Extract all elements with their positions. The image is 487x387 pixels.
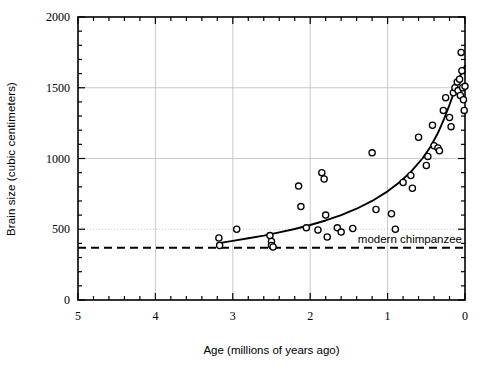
svg-text:4: 4: [152, 309, 158, 323]
svg-text:1000: 1000: [46, 152, 70, 166]
svg-text:modern chimpanzee: modern chimpanzee: [358, 233, 462, 245]
chart-background: [0, 0, 487, 387]
y-axis-title: Brain size (cubic centimeters): [5, 82, 17, 236]
svg-text:0: 0: [462, 309, 468, 323]
figure-root: 5432100500100015002000 modern chimpanzee…: [0, 0, 487, 387]
svg-text:2: 2: [307, 309, 313, 323]
svg-text:2000: 2000: [46, 10, 70, 24]
x-axis-title: Age (millions of years ago): [78, 344, 465, 356]
svg-text:1: 1: [385, 309, 391, 323]
brain-size-vs-age-scatter-chart: 5432100500100015002000 modern chimpanzee: [0, 0, 487, 387]
svg-text:3: 3: [230, 309, 236, 323]
figure-caption: [6, 374, 306, 386]
svg-text:1500: 1500: [46, 81, 70, 95]
svg-text:0: 0: [64, 293, 70, 307]
svg-text:500: 500: [52, 222, 70, 236]
y-axis-title-wrap: Brain size (cubic centimeters): [2, 17, 20, 300]
modern-chimpanzee-label: modern chimpanzee: [358, 233, 462, 245]
svg-text:5: 5: [75, 309, 81, 323]
